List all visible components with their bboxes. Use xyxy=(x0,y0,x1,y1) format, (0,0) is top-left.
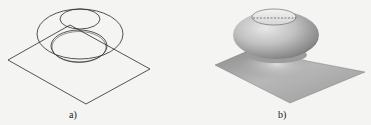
shaded-top-cap xyxy=(252,9,296,25)
wireframe-top-ellipse xyxy=(60,9,100,29)
wireframe-plane xyxy=(8,25,150,104)
wireframe-lower-ellipse-inner xyxy=(52,32,106,63)
figure-a-caption: a) xyxy=(69,110,77,120)
wireframe-outer-ellipse xyxy=(37,9,123,59)
figure-b-caption: b) xyxy=(278,110,286,120)
figure-b-shaded xyxy=(215,9,365,103)
wireframe-lower-ellipse xyxy=(51,30,107,62)
diagram-svg xyxy=(0,0,371,125)
figure-canvas: a) b) xyxy=(0,0,371,125)
figure-a-wireframe xyxy=(8,9,150,104)
